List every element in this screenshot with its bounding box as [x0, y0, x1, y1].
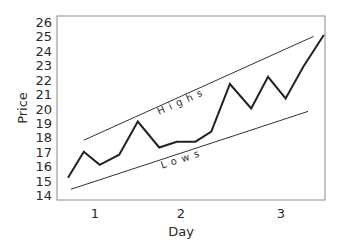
y-tick-label: 24	[35, 44, 52, 59]
y-axis-ticks: 14151617181920212223242526	[35, 15, 52, 203]
y-tick-label: 18	[35, 130, 52, 145]
price-chart: 14151617181920212223242526 123 Price Day…	[0, 0, 343, 248]
y-tick-label: 21	[35, 87, 52, 102]
y-tick-label: 23	[35, 58, 52, 73]
x-axis-label: Day	[168, 224, 194, 239]
y-tick-label: 15	[35, 174, 52, 189]
x-tick-label: 3	[277, 206, 285, 221]
x-axis-ticks: 123	[91, 206, 285, 221]
y-axis-label: Price	[15, 92, 30, 124]
plot-frame	[57, 16, 325, 200]
y-tick-label: 22	[35, 73, 52, 88]
x-tick-label: 1	[91, 206, 99, 221]
annotations: HighsLows	[155, 85, 208, 171]
y-tick-label: 19	[35, 116, 52, 131]
y-tick-label: 26	[35, 15, 52, 30]
highs-annotation: Highs	[155, 85, 208, 117]
y-tick-label: 14	[35, 188, 52, 203]
y-tick-label: 25	[35, 29, 52, 44]
y-tick-label: 16	[35, 159, 52, 174]
x-tick-label: 2	[177, 206, 185, 221]
lows-annotation: Lows	[159, 146, 205, 170]
y-tick-label: 20	[35, 102, 52, 117]
y-tick-label: 17	[35, 145, 52, 160]
series-lines	[68, 35, 324, 189]
